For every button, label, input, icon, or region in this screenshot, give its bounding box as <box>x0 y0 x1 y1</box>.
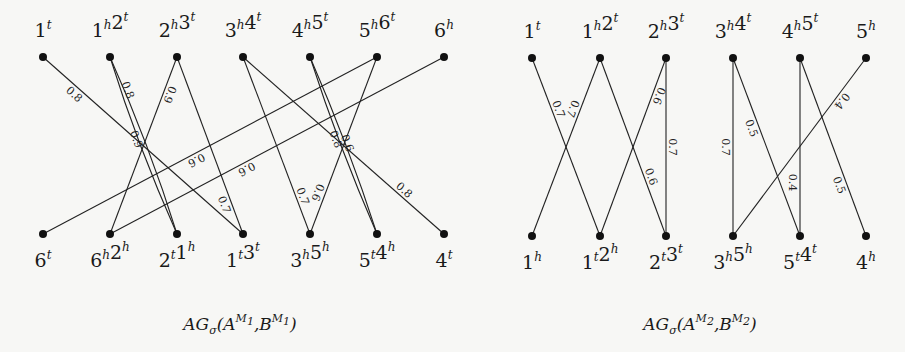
bottom-node-label: 5t4h <box>359 240 396 271</box>
graph-ag-sigma-m2: 0.70.70.60.60.70.70.50.40.50.41t1h2t2h3t… <box>522 11 876 337</box>
top-node-label: 3h4t <box>715 11 752 42</box>
edge-weight-label: 0.7 <box>549 99 567 120</box>
bottom-vertex <box>440 230 448 238</box>
edge-weight-label: 0.7 <box>563 98 581 119</box>
bottom-vertex <box>596 232 604 240</box>
top-vertex <box>106 53 114 61</box>
bottom-vertex <box>106 230 114 238</box>
edge-weight-label: 0.6 <box>650 85 668 106</box>
edge <box>310 57 377 234</box>
top-vertex <box>596 54 604 62</box>
bottom-vertex <box>528 232 536 240</box>
graph-caption: AGσ(AM1,BM1) <box>181 312 296 337</box>
edge-weight-label: 0.6 <box>642 166 660 187</box>
edge-layer: 0.80.80.90.90.70.70.80.60.80.60.60.6 <box>43 57 444 234</box>
edge-weight-label: 0.5 <box>830 175 848 196</box>
top-vertex <box>306 53 314 61</box>
bottom-vertex <box>796 232 804 240</box>
bottom-node-label: 1h <box>522 250 542 273</box>
bottom-vertex <box>862 232 870 240</box>
bottom-vertex <box>662 232 670 240</box>
edge-weight-label: 0.6 <box>186 150 208 170</box>
top-node-label: 1h2t <box>582 11 619 42</box>
bottom-node-label: 6h2h <box>90 240 130 271</box>
top-vertex <box>862 54 870 62</box>
bottom-node-label: 4t <box>436 248 453 271</box>
top-node-label: 6h <box>434 18 454 41</box>
top-vertex <box>796 54 804 62</box>
edge-weight-label: 0.7 <box>294 186 312 207</box>
top-node-label: 2h3t <box>648 11 685 42</box>
bottom-node-label: 1t3t <box>226 240 260 271</box>
bottom-node-label: 2t3t <box>649 242 683 273</box>
top-vertex <box>39 53 47 61</box>
bottom-vertex <box>373 230 381 238</box>
bottom-vertex <box>729 232 737 240</box>
bottom-vertex <box>306 230 314 238</box>
top-node-label: 4h5t <box>292 10 329 41</box>
edge-layer: 0.70.70.60.60.70.70.50.40.50.4 <box>532 58 866 236</box>
top-vertex <box>440 53 448 61</box>
top-node-label: 3h4t <box>225 10 262 41</box>
top-node-label: 1t <box>35 18 52 41</box>
edge <box>110 57 444 234</box>
diagram-canvas: 0.80.80.90.90.70.70.80.60.80.60.60.61t1h… <box>0 0 905 352</box>
top-node-label: 5h6t <box>359 10 396 41</box>
edge <box>800 58 866 236</box>
edge-weight-label: 0.7 <box>666 138 679 156</box>
top-vertex <box>662 54 670 62</box>
bottom-vertex <box>173 230 181 238</box>
top-node-label: 1t <box>524 19 541 42</box>
bottom-vertex <box>239 230 247 238</box>
top-node-label: 1h2t <box>92 10 129 41</box>
edge <box>733 58 800 236</box>
edge <box>43 57 377 234</box>
bottom-node-label: 2t1h <box>159 240 196 271</box>
bottom-vertex <box>39 230 47 238</box>
top-vertex <box>173 53 181 61</box>
bottom-node-label: 5t4t <box>783 242 817 273</box>
top-node-label: 5h <box>856 19 876 42</box>
top-vertex <box>528 54 536 62</box>
top-vertex <box>373 53 381 61</box>
edge-weight-label: 0.8 <box>393 180 415 201</box>
bottom-node-label: 4h <box>856 250 876 273</box>
edge-weight-label: 0.8 <box>63 84 85 105</box>
edge-weight-label: 0.4 <box>832 90 853 112</box>
edge-weight-label: 0.9 <box>161 84 179 105</box>
bottom-node-label: 3h5h <box>290 240 330 271</box>
edge-weight-label: 0.6 <box>236 159 258 179</box>
edge-weight-label: 0.5 <box>742 118 760 139</box>
top-vertex <box>239 53 247 61</box>
graph-caption: AGσ(AM2,BM2) <box>641 312 756 337</box>
top-node-label: 4h5t <box>782 11 819 42</box>
edge-weight-label: 0.7 <box>719 138 732 156</box>
graph-ag-sigma-m1: 0.80.80.90.90.70.70.80.60.80.60.60.61t1h… <box>35 10 454 337</box>
edge-weight-label: 0.4 <box>786 174 799 192</box>
top-vertex <box>729 54 737 62</box>
bottom-node-label: 1t2h <box>582 242 619 273</box>
bottom-node-label: 3h5h <box>713 242 753 273</box>
top-node-label: 2h3t <box>159 10 196 41</box>
bottom-node-label: 6t <box>35 248 52 271</box>
